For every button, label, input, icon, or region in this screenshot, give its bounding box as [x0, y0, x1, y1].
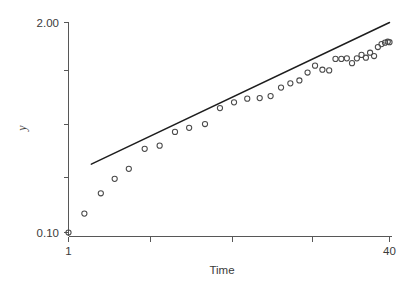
- data-point: [112, 176, 117, 181]
- data-point: [320, 67, 325, 72]
- data-point: [278, 85, 283, 90]
- data-point: [305, 70, 310, 75]
- data-point: [126, 166, 131, 171]
- data-point: [202, 121, 207, 126]
- x-axis-ticks: [69, 237, 390, 242]
- data-point: [371, 53, 376, 58]
- data-point: [312, 63, 317, 68]
- data-point: [354, 56, 359, 61]
- data-point: [245, 96, 250, 101]
- data-point: [327, 68, 332, 73]
- data-point: [344, 56, 349, 61]
- data-point: [217, 105, 222, 110]
- x-tick-label-left: 1: [65, 245, 71, 257]
- data-point: [82, 211, 87, 216]
- data-point: [142, 146, 147, 151]
- data-point: [268, 93, 273, 98]
- data-point: [157, 143, 162, 148]
- y-tick-label-bottom: 0.10: [37, 227, 59, 239]
- data-point: [98, 191, 103, 196]
- data-point: [172, 129, 177, 134]
- data-point: [363, 55, 368, 60]
- data-point: [333, 56, 338, 61]
- scatter-plot-svg: 2.00 0.10 1 40 Time y: [0, 0, 417, 282]
- x-tick-label-right: 40: [383, 245, 396, 257]
- y-axis-title: y: [15, 125, 29, 132]
- fit-line-path: [91, 23, 389, 165]
- chart-container: 2.00 0.10 1 40 Time y: [0, 0, 417, 282]
- y-tick-label-top: 2.00: [37, 17, 59, 29]
- x-axis-title: Time: [209, 264, 234, 276]
- data-point: [187, 125, 192, 130]
- data-point: [297, 78, 302, 83]
- data-points-group: [66, 39, 392, 235]
- data-point: [339, 56, 344, 61]
- fitted-trend-line: [91, 23, 389, 165]
- data-point: [231, 100, 236, 105]
- data-point: [257, 96, 262, 101]
- data-point: [349, 61, 354, 66]
- y-axis-ticks: [64, 23, 69, 233]
- data-point: [288, 81, 293, 86]
- plot-axes: [69, 22, 393, 237]
